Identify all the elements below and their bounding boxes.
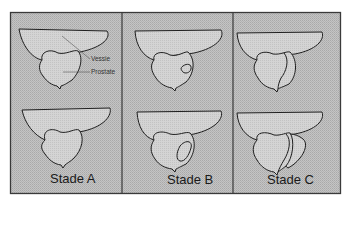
- stage-b-label: Stade B: [167, 172, 213, 187]
- stage-a-label: Stade A: [50, 171, 96, 186]
- prostate-label: Prostate: [91, 68, 115, 75]
- bladder-label: Vessie: [91, 55, 110, 62]
- stage-c-label: Stade C: [267, 172, 314, 187]
